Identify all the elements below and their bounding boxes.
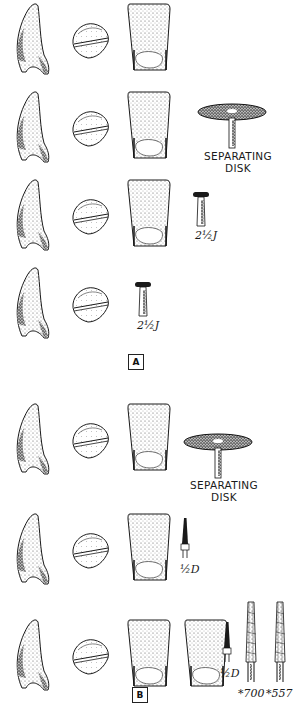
panel-b-row-1 (17, 404, 170, 474)
proximal-view-tooth (17, 404, 49, 474)
bur-label-557: *557 (266, 687, 293, 700)
panel-a-row-2 (17, 92, 170, 162)
lingual-view-tooth (128, 92, 170, 158)
separating-disk-icon (184, 434, 252, 478)
panel-b-row-3 (17, 620, 227, 690)
inverted-cone-bur-icon (193, 192, 209, 226)
proximal-view-tooth (17, 92, 49, 162)
proximal-view-tooth (17, 620, 49, 690)
proximal-view-tooth (17, 180, 49, 250)
proximal-view-tooth (17, 514, 49, 584)
bur-label-2-1-2-j: 2½J (195, 229, 217, 242)
separating-disk-icon (198, 104, 266, 148)
panel-label-a: A (128, 354, 144, 370)
incisal-view-tooth (73, 112, 108, 146)
separating-disk-label-line2: DISK (186, 491, 262, 503)
panel-label-b: B (132, 687, 148, 703)
panel-a-row-1 (17, 4, 170, 74)
incisal-view-tooth (73, 200, 108, 234)
separating-disk-label-line1: SEPARATING (186, 479, 262, 491)
inverted-cone-bur-icon (135, 282, 151, 316)
panel-a-row-4 (17, 268, 108, 338)
lingual-view-tooth (128, 620, 170, 686)
bur-label-2-1-2-j: 2½J (137, 319, 159, 332)
lingual-view-tooth (128, 404, 170, 470)
panel-b-row-2 (17, 514, 170, 584)
separating-disk-label-line1: SEPARATING (200, 150, 276, 162)
proximal-view-tooth (17, 4, 49, 74)
separating-disk-label-line2: DISK (200, 162, 276, 174)
lingual-view-tooth (128, 180, 170, 246)
panel-a-row-3 (17, 180, 170, 250)
lingual-view-tooth (128, 514, 170, 580)
incisal-view-tooth (73, 288, 108, 322)
bur-label-1-2-d: ½D (220, 667, 239, 680)
lingual-view-tooth (128, 4, 170, 70)
fissure-bur-700-icon (246, 602, 256, 682)
proximal-view-tooth (17, 268, 49, 338)
incisal-view-tooth (73, 534, 108, 568)
fissure-bur-557-icon (275, 602, 285, 682)
incisal-view-tooth (73, 424, 108, 458)
bur-label-1-2-d: ½D (180, 563, 199, 576)
separating-disk-label: SEPARATING DISK (200, 150, 276, 174)
bur-label-700: *700 (238, 687, 265, 700)
separating-disk-label: SEPARATING DISK (186, 479, 262, 503)
tapered-bur-icon (181, 518, 189, 558)
panel-b (17, 404, 285, 690)
dental-preparation-figure (0, 0, 301, 715)
incisal-view-tooth (73, 24, 108, 58)
incisal-view-tooth (73, 640, 108, 674)
